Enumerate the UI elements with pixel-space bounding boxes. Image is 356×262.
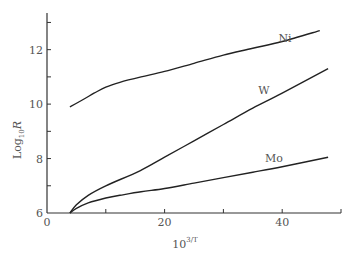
x-axis-label-exponent: 3/T bbox=[186, 236, 198, 244]
y-tick-label-12: 12 bbox=[29, 44, 43, 57]
x-tick-label-40: 40 bbox=[275, 216, 289, 229]
series-label-mo: Mo bbox=[265, 152, 283, 165]
y-tick-label-10: 10 bbox=[29, 98, 43, 111]
y-axis-label-prefix: Log bbox=[11, 138, 24, 159]
y-axis-label-subscript: 10 bbox=[18, 129, 26, 138]
series-labels: NiWMo bbox=[258, 32, 292, 165]
x-tick-label-0: 0 bbox=[44, 216, 51, 229]
series-label-ni: Ni bbox=[278, 32, 292, 45]
chart: 02040681012 NiWMo 103/T Log10R bbox=[0, 0, 356, 262]
y-axis-label: Log10R bbox=[11, 121, 26, 159]
y-tick-label-8: 8 bbox=[36, 153, 43, 166]
x-axis-label: 103/T bbox=[172, 236, 198, 251]
y-tick-label-6: 6 bbox=[36, 207, 43, 220]
x-axis-label-base: 10 bbox=[172, 238, 186, 251]
curves bbox=[70, 31, 328, 213]
y-axis-label-variable: R bbox=[11, 121, 24, 130]
series-line-w bbox=[70, 69, 328, 213]
tick-labels: 02040681012 bbox=[29, 44, 289, 229]
ticks bbox=[47, 22, 341, 213]
series-label-w: W bbox=[258, 84, 270, 97]
x-tick-label-20: 20 bbox=[158, 216, 172, 229]
